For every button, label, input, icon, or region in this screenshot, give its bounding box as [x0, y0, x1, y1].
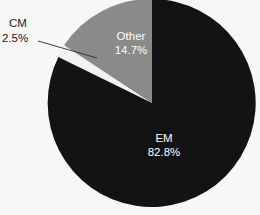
pie-label-em-name: EM [155, 132, 172, 144]
pie-label-other-name: Other [117, 30, 146, 42]
pie-label-em-percent: 82.8% [148, 146, 181, 158]
pie-label-cm-percent: 2.5% [2, 32, 28, 44]
pie-chart-figure: Other 14.7% EM 82.8% CM 2.5% [0, 0, 260, 215]
pie-label-cm-name: CM [9, 17, 27, 29]
pie-label-other-percent: 14.7% [115, 44, 148, 56]
pie-chart-canvas: Other 14.7% EM 82.8% CM 2.5% [0, 0, 260, 215]
